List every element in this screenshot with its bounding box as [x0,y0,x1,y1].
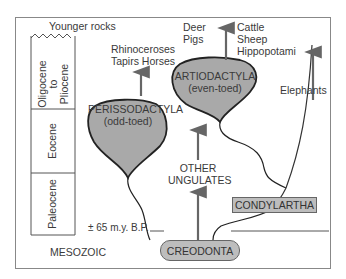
age-marker-label: ± 65 m.y. B.P. [88,222,149,234]
artiodactyla-descendants-right: Cattle Sheep Hippopotami [237,21,296,57]
condylartha-node: CONDYLARTHA [232,197,317,213]
epoch-paleocene: Paleocene [47,176,59,232]
artiodactyla-node: ARTIODACTYLA (even-toed) [173,70,257,94]
mesozoic-label: MESOZOIC [50,246,106,258]
younger-rocks-label: Younger rocks [49,20,116,32]
creodonta-node: CREODONTA [160,240,240,261]
perissodactyla-descendants: Rhinoceroses Tapirs Horses [108,43,178,67]
epoch-oligocene-to-pliocene: Oligocene to Pliocene [35,51,71,117]
perissodactyla-node: PERISSODACTYLA (odd-toed) [88,103,168,127]
other-ungulates-node: OTHER UNGULATES [168,162,228,186]
artiodactyla-descendants-left: Deer Pigs [183,21,206,45]
epoch-eocene: Eocene [47,116,59,166]
elephants-label: Elephants [280,84,327,96]
